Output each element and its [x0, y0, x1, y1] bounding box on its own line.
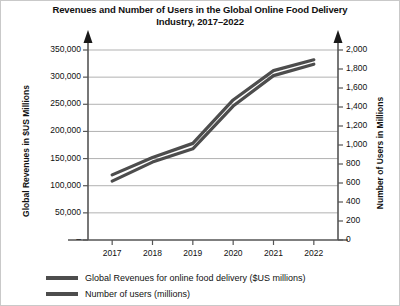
right-tick-label: 1,600	[346, 82, 400, 92]
chart-legend: Global Revenues for online food delivery…	[46, 270, 306, 302]
left-tick-label: 200,000	[25, 125, 81, 135]
x-axis-ticks	[112, 240, 314, 245]
right-tick-label: 2,000	[346, 44, 400, 54]
right-axis-title: Number of Users in Millions	[375, 73, 385, 233]
legend-item-users: Number of users (millions)	[46, 286, 306, 302]
left-tick-label: 150,000	[25, 153, 81, 163]
left-tick-label-zero: –	[25, 234, 81, 244]
right-tick-label: 200	[346, 215, 400, 225]
right-tick-label: 1,200	[346, 120, 400, 130]
left-axis	[84, 30, 93, 240]
legend-item-revenues: Global Revenues for online food delivery…	[46, 270, 306, 286]
right-tick-label: 800	[346, 158, 400, 168]
x-tick-label: 2021	[251, 248, 297, 258]
legend-swatch-users	[46, 292, 78, 296]
right-tick-label: 1,800	[346, 63, 400, 73]
left-tick-label: 100,000	[25, 180, 81, 190]
x-tick-label: 2018	[130, 248, 176, 258]
legend-label-users: Number of users (millions)	[85, 289, 190, 299]
left-tick-label: 250,000	[25, 98, 81, 108]
x-tick-label: 2020	[210, 248, 256, 258]
gridlines	[88, 50, 338, 213]
right-tick-label: 1,400	[346, 101, 400, 111]
right-tick-label: 400	[346, 196, 400, 206]
legend-swatch-revenues	[46, 276, 78, 280]
right-axis	[334, 30, 343, 240]
right-tick-label: 1,000	[346, 139, 400, 149]
left-tick-label: 300,000	[25, 71, 81, 81]
right-tick-label: 0	[346, 234, 400, 244]
left-tick-label: 50,000	[25, 207, 81, 217]
x-tick-label: 2019	[170, 248, 216, 258]
data-series-lines	[112, 60, 314, 181]
x-tick-label: 2017	[89, 248, 135, 258]
x-tick-label: 2022	[291, 248, 337, 258]
right-tick-label: 600	[346, 177, 400, 187]
legend-label-revenues: Global Revenues for online food delivery…	[85, 273, 306, 283]
left-tick-label: 350,000	[25, 44, 81, 54]
